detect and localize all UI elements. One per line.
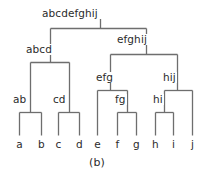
node-label-efghij: efghij [116,34,148,45]
node-label-cd: cd [52,94,67,105]
node-label-abcdefghij: abcdefghij [41,8,99,19]
leaf-label-i: i [167,139,180,150]
node-label-ab: ab [12,94,27,105]
node-label-fg: fg [114,94,127,105]
figure-caption: (b) [85,157,109,168]
leaf-label-d: d [73,139,86,150]
leaf-label-g: g [130,139,143,150]
node-label-hij: hij [162,72,177,83]
leaf-label-b: b [35,139,48,150]
leaf-label-j: j [186,139,199,150]
dendrogram-figure: abcdefghij abcd efghij ab cd efg hij fg … [0,0,206,175]
leaf-label-c: c [52,139,65,150]
leaf-label-f: f [111,139,124,150]
leaf-label-a: a [13,139,26,150]
node-label-abcd: abcd [25,44,53,55]
leaf-label-e: e [91,139,104,150]
node-label-hi: hi [152,94,164,105]
leaf-label-h: h [149,139,162,150]
node-label-efg: efg [95,72,114,83]
